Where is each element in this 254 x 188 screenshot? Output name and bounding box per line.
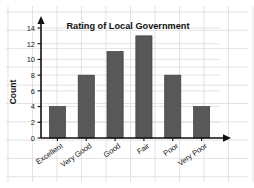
value-gridlines [41,28,220,122]
y-tick-label: 14 [27,24,35,33]
bar [165,75,181,138]
y-tick-label: 6 [31,87,35,96]
y-axis-ticks: 02468101214 [27,24,41,143]
bar [49,107,65,138]
y-tick-label: 2 [31,118,35,127]
x-category-label: Very Good [59,141,94,169]
x-category-label: Fair [135,141,151,156]
y-tick-label: 10 [27,55,35,64]
x-category-label: Very Poor [176,141,209,168]
bar-chart-plot: 02468101214 ExcellentVery GoodGoodFairPo… [0,0,254,188]
y-tick-label: 12 [27,40,35,49]
y-tick-label: 4 [31,102,35,111]
y-tick-label: 8 [31,71,35,80]
y-tick-label: 0 [31,134,35,143]
x-category-label: Good [102,141,122,159]
y-axis-arrow-icon [37,16,44,24]
bar [194,107,210,138]
chart-figure: 02468101214 ExcellentVery GoodGoodFairPo… [0,0,254,188]
bar [107,52,123,138]
bar [136,36,152,138]
chart-title: Rating of Local Government [66,21,189,31]
x-axis-arrow-icon [223,134,231,142]
bar [78,75,94,138]
y-axis-title: Count [8,80,18,105]
x-category-label: Poor [162,141,181,158]
x-axis-category-labels: ExcellentVery GoodGoodFairPoorVery Poor [34,138,209,169]
